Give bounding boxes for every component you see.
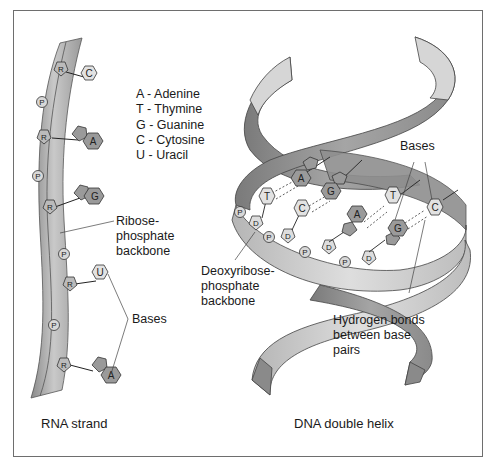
dna-backbone-label-line2: phosphate (201, 279, 275, 294)
svg-text:A: A (108, 370, 115, 381)
svg-text:R: R (47, 203, 53, 212)
key-item-cytosine: C - Cytosine (136, 133, 205, 148)
key-item-adenine: A - Adenine (136, 87, 205, 102)
rna-backbone-label-line2: phosphate (116, 229, 174, 244)
rna-base-cytosine-icon: C (81, 66, 97, 80)
rna-backbone-label-line3: backbone (116, 244, 174, 259)
svg-text:G: G (327, 186, 335, 197)
dna-base-adenine-icon: A (342, 206, 367, 236)
svg-text:U: U (96, 267, 103, 278)
dna-bases-label: Bases (400, 139, 435, 154)
rna-backbone-leader (60, 221, 114, 233)
svg-text:P: P (35, 172, 40, 181)
diagram-canvas: P P P P R C R A R G R U R (0, 0, 492, 470)
dna-base-cytosine-icon: C (294, 200, 310, 216)
dna-hbond-label-line2: between base (333, 328, 425, 343)
svg-text:D: D (326, 243, 332, 252)
dna-backbone-label: Deoxyribose- phosphate backbone (201, 264, 275, 309)
svg-text:P: P (237, 208, 242, 217)
svg-text:P: P (51, 321, 56, 330)
dna-base-thymine-icon: T (385, 187, 401, 203)
rna-backbone-label: Ribose- phosphate backbone (116, 214, 174, 259)
svg-text:R: R (67, 280, 73, 289)
rna-bases-label: Bases (132, 312, 167, 327)
svg-text:P: P (39, 98, 44, 107)
rna-base-guanine-icon: G (74, 185, 104, 204)
rna-caption: RNA strand (41, 416, 107, 431)
rna-phosphate-icon: P (33, 171, 44, 182)
dna-hbond-label-line1: Hydrogen bonds (333, 313, 425, 328)
rna-strand: P P P P R C R A R G R U R (31, 38, 128, 398)
dna-hbond-label: Hydrogen bonds between base pairs (333, 313, 425, 358)
dna-base-thymine-icon: T (259, 188, 275, 204)
svg-text:A: A (90, 136, 97, 147)
svg-text:C: C (431, 202, 438, 213)
key-item-uracil: U - Uracil (136, 148, 205, 163)
dna-deoxyribose-icon: D (281, 229, 295, 243)
svg-text:T: T (390, 190, 396, 201)
svg-text:A: A (298, 173, 305, 184)
dna-backbone-label-line3: backbone (201, 294, 275, 309)
dna-caption: DNA double helix (294, 416, 394, 431)
base-key-legend: A - Adenine T - Thymine G - Guanine C - … (136, 87, 205, 163)
rna-phosphate-icon: P (49, 320, 60, 331)
key-item-guanine: G - Guanine (136, 118, 205, 133)
svg-text:D: D (366, 254, 372, 263)
svg-text:A: A (354, 209, 361, 220)
svg-text:G: G (91, 191, 99, 202)
rna-base-adenine-icon: A (92, 357, 121, 383)
svg-text:P: P (61, 250, 66, 259)
rna-bases-leader (108, 274, 128, 374)
svg-text:P: P (342, 258, 347, 267)
dna-deoxyribose-icon: D (322, 240, 336, 254)
svg-text:P: P (302, 248, 307, 257)
dna-base-guanine-icon: G (386, 220, 408, 245)
svg-text:R: R (41, 133, 47, 142)
svg-text:R: R (58, 65, 64, 74)
dna-phosphate-icon: P (300, 247, 311, 258)
rna-phosphate-icon: P (37, 97, 48, 108)
rna-backbone-ribbon (31, 38, 82, 398)
dna-phosphate-icon: P (340, 257, 351, 268)
rna-base-adenine-icon: A (72, 126, 103, 149)
svg-text:D: D (285, 232, 291, 241)
svg-text:G: G (394, 223, 402, 234)
dna-backbone-label-line1: Deoxyribose- (201, 264, 275, 279)
svg-text:C: C (85, 68, 92, 79)
dna-phosphate-icon: P (235, 207, 246, 218)
svg-text:C: C (298, 203, 305, 214)
rna-base-uracil-icon: U (92, 265, 108, 279)
dna-base-cytosine-icon: C (427, 199, 443, 215)
dna-phosphate-icon: P (264, 232, 275, 243)
svg-text:D: D (253, 219, 259, 228)
svg-text:R: R (61, 361, 67, 370)
dna-hbond-label-line3: pairs (333, 343, 425, 358)
key-item-thymine: T - Thymine (136, 102, 205, 117)
svg-text:T: T (264, 191, 270, 202)
rna-backbone-label-line1: Ribose- (116, 214, 174, 229)
svg-text:P: P (266, 233, 271, 242)
dna-deoxyribose-icon: D (362, 251, 376, 265)
rna-phosphate-icon: P (59, 249, 70, 260)
